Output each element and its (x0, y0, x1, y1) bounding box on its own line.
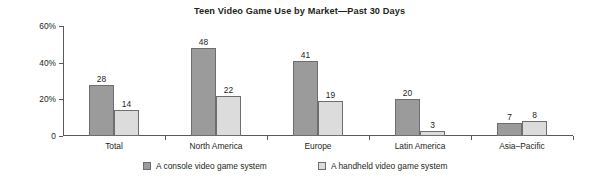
bar-value-label: 14 (122, 99, 131, 109)
legend-label: A console video game system (156, 161, 267, 171)
category-label: Europe (304, 141, 331, 151)
y-axis-label: 60% (39, 21, 56, 31)
bar-handheld[interactable]: 3 (420, 131, 445, 137)
bar-value-label: 8 (532, 110, 537, 120)
category-label: Asia–Pacific (499, 141, 545, 151)
category-label: Latin America (395, 141, 446, 151)
bar-value-label: 28 (97, 74, 106, 84)
x-axis-tick (267, 136, 268, 140)
x-axis-tick (165, 136, 166, 140)
bar-handheld[interactable]: 14 (114, 110, 139, 136)
bar-group: 4119 (293, 26, 343, 136)
bar-console[interactable]: 28 (89, 85, 114, 136)
x-axis-tick (369, 136, 370, 140)
y-axis-line (63, 26, 64, 136)
bar-value-label: 41 (301, 50, 310, 60)
bar-handheld[interactable]: 22 (216, 96, 241, 136)
bar-group: 4822 (191, 26, 241, 136)
plot-area: 020%40%60% 28144822411920378 (63, 26, 573, 136)
chart-container: Teen Video Game Use by Market—Past 30 Da… (0, 0, 599, 184)
y-axis-label: 20% (39, 94, 56, 104)
y-axis-label: 0 (51, 131, 56, 141)
bar-console[interactable]: 20 (395, 99, 420, 136)
bar-value-label: 20 (403, 88, 412, 98)
bar-value-label: 19 (326, 90, 335, 100)
y-axis-tick (59, 63, 63, 64)
bar-handheld[interactable]: 8 (522, 121, 547, 136)
y-axis-tick (59, 26, 63, 27)
legend-swatch-icon (143, 162, 151, 170)
legend-swatch-icon (318, 162, 326, 170)
bar-group: 2814 (89, 26, 139, 136)
bar-value-label: 48 (199, 37, 208, 47)
bar-console[interactable]: 41 (293, 61, 318, 136)
bar-console[interactable]: 7 (497, 123, 522, 136)
chart-title: Teen Video Game Use by Market—Past 30 Da… (0, 6, 599, 16)
legend-item-handheld[interactable]: A handheld video game system (318, 161, 447, 171)
y-axis-label: 40% (39, 58, 56, 68)
bar-group: 203 (395, 26, 445, 136)
bar-handheld[interactable]: 19 (318, 101, 343, 136)
bar-value-label: 22 (224, 85, 233, 95)
bar-value-label: 7 (507, 112, 512, 122)
bar-value-label: 3 (430, 120, 435, 130)
x-axis-tick (471, 136, 472, 140)
x-axis-tick (573, 136, 574, 140)
legend-item-console[interactable]: A console video game system (143, 161, 267, 171)
category-label: Total (105, 141, 123, 151)
y-axis-tick (59, 136, 63, 137)
legend-label: A handheld video game system (331, 161, 447, 171)
category-label: North America (189, 141, 242, 151)
y-axis-tick (59, 99, 63, 100)
bar-group: 78 (497, 26, 547, 136)
bar-console[interactable]: 48 (191, 48, 216, 136)
